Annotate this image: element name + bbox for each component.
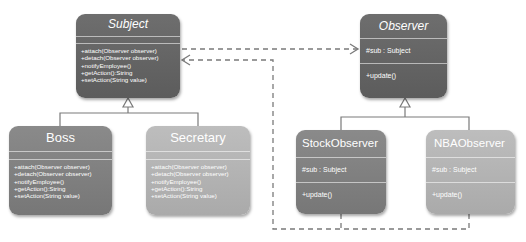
operation: +setAction(String value) <box>81 76 180 83</box>
dependency-arrow-to-subject <box>182 55 190 65</box>
class-stock-observer[interactable]: StockObserver #sub : Subject +update() <box>296 130 386 214</box>
operation: +setAction(String value) <box>151 192 250 199</box>
attributes-compartment: #sub : Subject <box>360 39 447 63</box>
operation: +notifyEmployee() <box>81 62 180 69</box>
operations-compartment: +attach(Observer observer) +detach(Obser… <box>146 160 250 199</box>
class-stock-observer-name: StockObserver <box>296 130 386 157</box>
operation: +notifyEmployee() <box>14 178 112 185</box>
class-subject-name: Subject <box>76 14 180 36</box>
attributes-compartment: #sub : Subject <box>426 158 515 182</box>
operation: +detach(Observer observer) <box>81 54 180 61</box>
uml-diagram-canvas: Subject +attach(Observer observer) +deta… <box>0 0 526 242</box>
attribute: #sub : Subject <box>366 47 410 54</box>
attributes-compartment <box>9 152 112 159</box>
operations-compartment: +update() <box>360 64 447 88</box>
class-boss-name: Boss <box>9 126 112 151</box>
operation: +getAction():String <box>151 185 250 192</box>
class-secretary[interactable]: Secretary +attach(Observer observer) +de… <box>146 126 250 215</box>
operation: +detach(Observer observer) <box>14 170 112 177</box>
operation: +detach(Observer observer) <box>151 170 250 177</box>
operation: +getAction():String <box>14 185 112 192</box>
operation: +attach(Observer observer) <box>81 47 180 54</box>
generalization-line-observer <box>341 117 469 130</box>
operation: +getAction():String <box>81 69 180 76</box>
operation: +update() <box>366 72 396 79</box>
class-subject[interactable]: Subject +attach(Observer observer) +deta… <box>76 14 180 98</box>
operation: +setAction(String value) <box>14 192 112 199</box>
operations-compartment: +update() <box>296 183 386 207</box>
dependency-arrow-to-observer <box>350 44 358 54</box>
class-nba-observer[interactable]: NBAObserver #sub : Subject +update() <box>426 130 515 214</box>
class-secretary-name: Secretary <box>146 126 250 151</box>
operation: +update() <box>432 191 462 198</box>
operations-compartment: +attach(Observer observer) +detach(Obser… <box>9 160 112 199</box>
operations-compartment: +attach(Observer observer) +detach(Obser… <box>76 44 180 83</box>
generalization-arrow-subject <box>123 98 133 107</box>
attributes-compartment <box>146 152 250 159</box>
attributes-compartment: #sub : Subject <box>296 158 386 182</box>
operation: +notifyEmployee() <box>151 178 250 185</box>
operation: +update() <box>302 191 332 198</box>
operations-compartment: +update() <box>426 183 515 207</box>
class-observer[interactable]: Observer #sub : Subject +update() <box>360 14 447 98</box>
attribute: #sub : Subject <box>432 166 476 173</box>
operation: +attach(Observer observer) <box>151 163 250 170</box>
operation: +attach(Observer observer) <box>14 163 112 170</box>
generalization-arrow-observer <box>400 98 410 107</box>
class-nba-observer-name: NBAObserver <box>426 130 515 157</box>
class-observer-name: Observer <box>360 14 447 38</box>
attribute: #sub : Subject <box>302 166 346 173</box>
class-boss[interactable]: Boss +attach(Observer observer) +detach(… <box>9 126 112 215</box>
